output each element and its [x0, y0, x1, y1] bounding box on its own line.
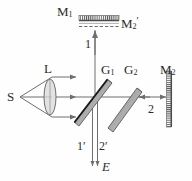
- label-source-S: S: [7, 90, 14, 103]
- mirror-M2: [167, 71, 172, 127]
- label-mirror-M1: M1: [57, 5, 73, 20]
- label-beam-2-prime: 2′: [99, 140, 108, 152]
- label-compensator-G2: G2: [124, 63, 137, 78]
- label-beam-1: 1: [85, 38, 91, 50]
- label-lens-L: L: [44, 62, 52, 75]
- compensator-G2: [108, 88, 142, 132]
- label-beam-2: 2: [148, 103, 154, 115]
- mirror-M2-prime-virtual: [79, 23, 119, 26]
- output-beam-pair: [93, 100, 98, 166]
- label-mirror-M2-prime: M2′: [121, 16, 139, 31]
- label-output-E: E: [102, 160, 110, 173]
- label-beam-1-prime: 1′: [77, 140, 86, 152]
- beamsplitter-coating-line: [75, 80, 108, 123]
- optics-diagram-canvas: M1 M2′ M2 L S G1 G2 1 2 1′ 2′ E: [0, 0, 192, 181]
- label-mirror-M2: M2: [160, 63, 176, 78]
- label-splitter-G1: G1: [101, 63, 114, 78]
- mirror-M1: [79, 16, 119, 21]
- ray-diagram-svg: [0, 0, 192, 181]
